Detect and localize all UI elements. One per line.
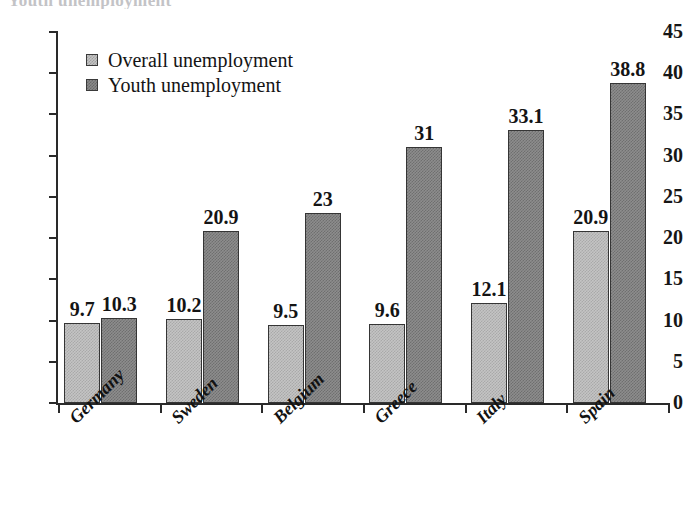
bar-greece-youth (406, 147, 442, 403)
bar-spain-overall (573, 231, 609, 403)
x-axis-tick (261, 404, 263, 413)
x-axis-tick (160, 404, 162, 413)
y-axis-tick (49, 155, 57, 157)
y-axis-tick (49, 72, 57, 74)
x-axis-tick (363, 404, 365, 413)
y-axis-tick (49, 402, 57, 404)
y-axis-tick (49, 237, 57, 239)
legend-label-overall: Overall unemployment (108, 50, 293, 70)
bar-value-label: 23 (293, 189, 353, 209)
bar-italy-youth (508, 130, 544, 403)
legend-label-youth: Youth unemployment (108, 75, 281, 95)
y-axis-tick (49, 31, 57, 33)
legend-item-youth-unemployment: Youth unemployment (86, 72, 336, 97)
x-axis-tick (668, 404, 670, 413)
bar-value-label: 10.3 (89, 294, 149, 314)
legend-item-overall-unemployment: Overall unemployment (86, 47, 336, 72)
bar-chart: 454035302520151050 9.710.310.220.99.5239… (0, 0, 683, 509)
y-axis-tick (49, 113, 57, 115)
legend-swatch-icon-overall (86, 54, 98, 66)
x-axis-tick (465, 404, 467, 413)
y-axis-tick (49, 361, 57, 363)
bar-value-label: 33.1 (496, 106, 556, 126)
chart-legend: Overall unemployment Youth unemployment (86, 47, 336, 97)
bar-spain-youth (610, 83, 646, 403)
x-axis-tick (58, 404, 60, 413)
y-axis-tick (49, 196, 57, 198)
y-axis-tick (49, 320, 57, 322)
legend-swatch-icon-youth (86, 79, 98, 91)
x-axis-tick (566, 404, 568, 413)
bar-value-label: 31 (394, 123, 454, 143)
bar-italy-overall (471, 303, 507, 403)
bar-value-label: 20.9 (191, 207, 251, 227)
y-axis-tick (49, 278, 57, 280)
bar-value-label: 38.8 (598, 59, 658, 79)
